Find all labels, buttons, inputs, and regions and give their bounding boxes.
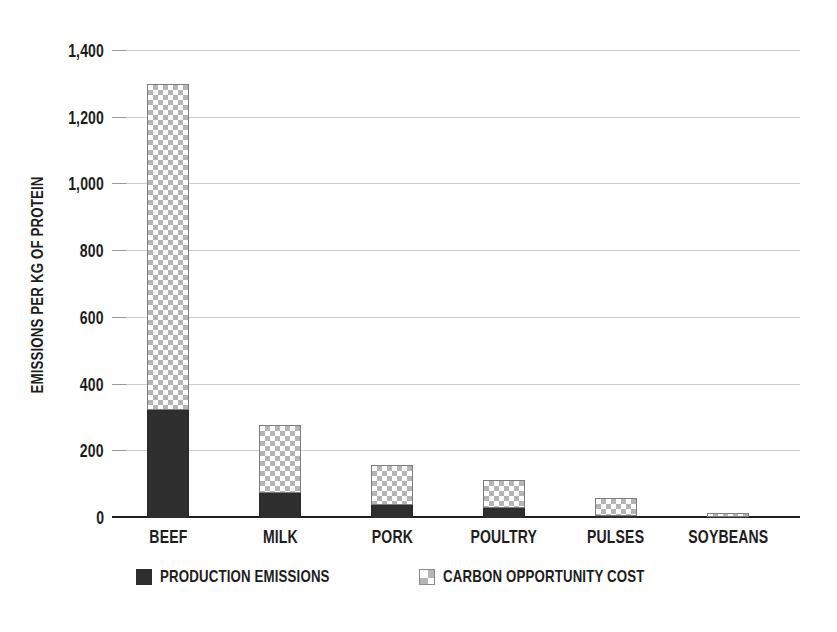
y-tick-label-text: 400 [80,375,104,395]
solid-swatch-icon [136,569,152,585]
bar-slot-milk [224,425,336,518]
x-axis-label-pork: PORK [336,527,448,548]
y-tick-label-1200: 1,200 [0,108,104,128]
segment-production-emissions-pork [371,505,413,518]
x-axis-label-pulses: PULSES [560,527,672,548]
y-tick-label-1400: 1,400 [0,41,104,61]
y-tick-label-text: 800 [80,241,104,261]
x-axis-labels: BEEFMILKPORKPOULTRYPULSESSOYBEANS [112,527,784,548]
segment-production-emissions-milk [259,493,301,518]
bar-milk [259,425,301,518]
y-tick-label-text: 600 [80,308,104,328]
y-tick-label-text: 1,000 [68,174,104,194]
y-tick-label-text: 0 [96,508,104,528]
x-axis-label-text-milk: MILK [263,527,298,548]
y-tick-label-text: 1,400 [68,41,104,61]
y-tick-label-600: 600 [0,308,104,328]
y-tick-label-800: 800 [0,241,104,261]
x-axis-label-soybeans: SOYBEANS [672,527,784,548]
x-axis-label-text-poultry: POULTRY [471,527,538,548]
bar-pork [371,465,413,518]
y-tick-label-0: 0 [0,508,104,528]
checker-swatch-icon [419,569,435,585]
y-tick-label-text: 1,200 [68,108,104,128]
bar-soybeans [707,513,749,518]
x-axis-label-milk: MILK [224,527,336,548]
segment-carbon-opportunity-cost-pork [371,465,413,505]
segment-production-emissions-poultry [483,508,525,518]
legend-label-production-emissions: PRODUCTION EMISSIONS [160,567,330,587]
x-axis-label-text-beef: BEEF [149,527,187,548]
x-axis-label-beef: BEEF [112,527,224,548]
y-tick-label-1000: 1,000 [0,174,104,194]
bar-beef [147,84,189,518]
x-axis-label-text-soybeans: SOYBEANS [688,527,768,548]
legend-item-carbon-opportunity-cost: CARBON OPPORTUNITY COST [419,567,701,587]
bar-slot-poultry [448,480,560,518]
y-tick-label-200: 200 [0,441,104,461]
x-axis-label-text-pulses: PULSES [587,527,644,548]
segment-production-emissions-soybeans [707,517,749,518]
segment-production-emissions-beef [147,410,189,518]
y-tick-label-400: 400 [0,375,104,395]
bar-poultry [483,480,525,518]
segment-carbon-opportunity-cost-milk [259,425,301,493]
plot-area [112,51,800,518]
bar-slot-soybeans [672,513,784,518]
segment-carbon-opportunity-cost-beef [147,84,189,409]
chart: EMISSIONS PER KG OF PROTEIN 020040060080… [0,0,837,632]
x-axis-label-text-pork: PORK [371,527,412,548]
y-tick-label-text: 200 [80,441,104,461]
bars-container [112,51,784,518]
bar-slot-beef [112,84,224,518]
bar-slot-pork [336,465,448,518]
segment-carbon-opportunity-cost-pulses [595,498,637,516]
bar-pulses [595,498,637,518]
legend: PRODUCTION EMISSIONSCARBON OPPORTUNITY C… [0,567,837,587]
legend-label-carbon-opportunity-cost: CARBON OPPORTUNITY COST [443,567,645,587]
x-axis-label-poultry: POULTRY [448,527,560,548]
bar-slot-pulses [560,498,672,518]
y-axis-tick-labels: 02004006008001,0001,2001,400 [0,51,104,518]
segment-carbon-opportunity-cost-poultry [483,480,525,508]
segment-production-emissions-pulses [595,516,637,518]
legend-item-production-emissions: PRODUCTION EMISSIONS [136,567,377,587]
